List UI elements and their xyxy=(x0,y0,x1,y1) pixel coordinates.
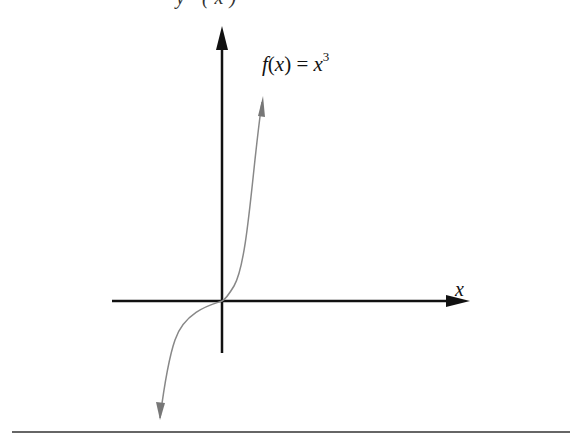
function-arg: x xyxy=(275,52,284,76)
x-axis xyxy=(112,295,470,307)
y-axis xyxy=(216,26,228,353)
curve-top-arrow-icon xyxy=(258,96,265,117)
x-axis-label: x xyxy=(455,278,464,301)
function-exponent: 3 xyxy=(323,49,330,64)
function-rhs-base: x xyxy=(314,52,323,76)
function-label: f(x) = x3 xyxy=(262,51,329,77)
cubic-curve xyxy=(160,102,262,418)
y-axis-arrow-icon xyxy=(216,26,228,50)
curve-bottom-arrow-icon xyxy=(156,402,165,420)
